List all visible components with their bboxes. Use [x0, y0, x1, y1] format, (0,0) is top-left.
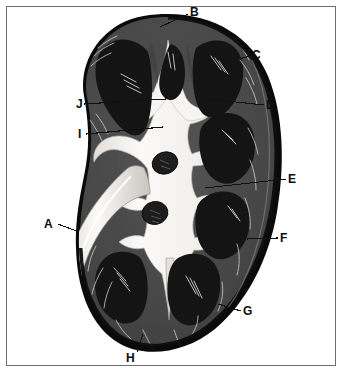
ureter-lumen-inner [58, 306, 71, 313]
label-J: J [76, 98, 83, 110]
label-G: G [243, 305, 252, 317]
label-F: F [280, 232, 287, 244]
label-H: H [126, 352, 135, 364]
label-E: E [288, 173, 296, 185]
figure-page: A B C D E F G H I J [0, 0, 343, 373]
label-B: B [190, 6, 199, 18]
ureter-lumen [53, 303, 75, 316]
label-D: D [266, 99, 275, 111]
leader-line-A [58, 224, 79, 232]
kidney-cross-section-diagram [0, 0, 343, 373]
label-A: A [44, 218, 53, 230]
label-C: C [252, 49, 261, 61]
label-I: I [78, 128, 81, 140]
